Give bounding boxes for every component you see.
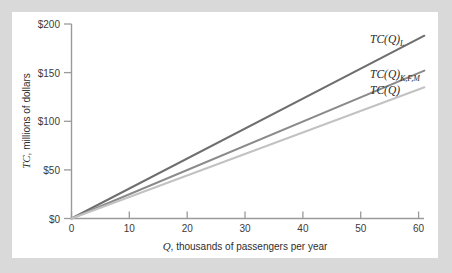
x-tick-label-50: 50 bbox=[355, 223, 367, 234]
y-axis-ticks bbox=[64, 24, 72, 219]
series-label-tc-q-kfm-main: TC(Q) bbox=[370, 68, 400, 81]
x-tick-label-40: 40 bbox=[297, 223, 309, 234]
series-label-tc-q-kfm: TC(Q)K,F,M bbox=[370, 68, 421, 83]
y-tick-label-50: $50 bbox=[43, 165, 60, 176]
chart-panel: $200 $150 $100 $50 $0 0 10 20 30 40 50 6… bbox=[12, 12, 438, 258]
y-tick-label-0: $0 bbox=[49, 214, 61, 225]
series-line-tc-q bbox=[72, 87, 425, 218]
line-chart: $200 $150 $100 $50 $0 0 10 20 30 40 50 6… bbox=[12, 12, 438, 258]
series-line-tc-q-l bbox=[72, 36, 425, 219]
series-label-tc-q-l-sub: L bbox=[399, 39, 405, 48]
x-tick-label-20: 20 bbox=[182, 223, 194, 234]
figure-container: $200 $150 $100 $50 $0 0 10 20 30 40 50 6… bbox=[0, 0, 452, 273]
x-axis-title-rest: , thousands of passengers per year bbox=[171, 241, 328, 252]
y-axis-title: TC, millions of dollars bbox=[20, 73, 32, 169]
x-axis-title: Q, thousands of passengers per year bbox=[163, 240, 328, 252]
y-tick-label-100: $100 bbox=[38, 116, 61, 127]
series-label-tc-q: TC(Q) bbox=[370, 84, 400, 97]
x-tick-label-30: 30 bbox=[239, 223, 251, 234]
series-label-tc-q-l: TC(Q)L bbox=[370, 33, 405, 48]
x-tick-label-10: 10 bbox=[124, 223, 136, 234]
x-axis-ticks bbox=[72, 212, 419, 219]
x-tick-label-60: 60 bbox=[413, 223, 425, 234]
y-axis-title-rest: , millions of dollars bbox=[21, 73, 32, 155]
x-axis-title-variable: Q bbox=[163, 240, 171, 252]
x-tick-label-0: 0 bbox=[69, 223, 75, 234]
y-tick-label-150: $150 bbox=[38, 68, 61, 79]
y-tick-label-200: $200 bbox=[38, 19, 61, 30]
series-label-tc-q-l-main: TC(Q) bbox=[370, 33, 400, 46]
y-axis-title-variable: TC bbox=[20, 155, 32, 169]
series-label-tc-q-kfm-sub: K,F,M bbox=[399, 74, 421, 83]
